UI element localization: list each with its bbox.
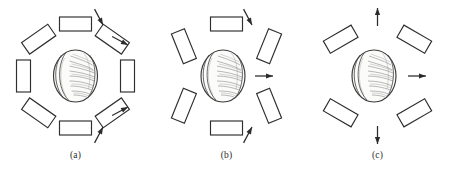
element-upper-right [95,24,129,54]
arrow-bottom [375,126,380,144]
element-lower-left [171,88,196,123]
panel-b: (b) [151,0,302,173]
element-upper-right [257,29,282,64]
panel-c: (c) [302,0,453,173]
panel-c-diagram [302,0,453,150]
arrow-right [255,73,273,78]
element-lower-right [95,98,129,128]
element-left [17,60,31,92]
element-top [211,17,243,31]
element-lower-right [397,99,432,127]
element-lower-left [22,98,56,128]
element-lower-left [323,99,358,127]
element-top [60,17,92,31]
panel-b-diagram [151,0,302,150]
arrow-right [408,73,426,78]
element-upper-right [397,25,432,53]
arrow-upper-right [241,8,254,26]
arrow-lower-right [241,126,254,144]
figure-root: (a) (b) [0,0,453,173]
element-right [121,60,135,92]
walnut-center [352,50,396,102]
element-lower-right [257,88,282,123]
arrow-upper-right-outer [92,8,105,26]
panel-a-caption: (a) [0,150,151,160]
element-bottom [211,121,243,135]
element-upper-left [171,29,196,64]
element-upper-left [22,24,56,54]
walnut-center [201,50,245,102]
panel-b-caption: (b) [151,150,302,160]
element-bottom [60,121,92,135]
panel-a-diagram [0,0,151,150]
arrow-top [375,8,380,26]
panel-a: (a) [0,0,151,173]
element-upper-left [323,25,358,53]
walnut-center [54,50,98,102]
arrow-lower-right-outer [92,126,105,144]
panel-c-caption: (c) [302,150,453,160]
